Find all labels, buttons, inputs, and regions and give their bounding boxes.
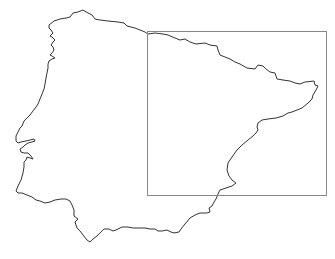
map-canvas	[0, 0, 335, 259]
iberia-coastline	[16, 10, 318, 242]
extent-box	[148, 32, 327, 196]
map-svg	[0, 0, 335, 259]
